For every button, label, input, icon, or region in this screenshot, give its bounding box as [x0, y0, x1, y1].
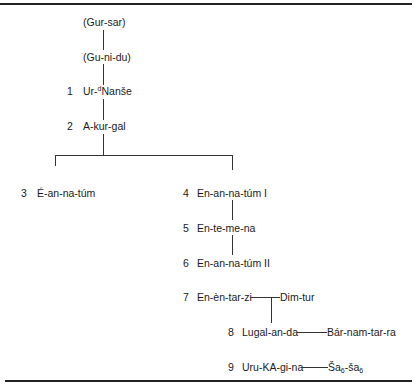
ruler-number-1: 1	[67, 85, 73, 97]
node-en-en-tar-zi: En-èn-tar-zi	[197, 291, 252, 303]
node-gu-ni-du: (Gu-ni-du)	[83, 51, 131, 63]
node-ur-nanse: Ur-dNanše	[83, 85, 132, 97]
ruler-number-3: 3	[21, 187, 27, 199]
connector-5-6	[232, 235, 233, 255]
connector-ur-nanse-a-kur-gal	[103, 99, 104, 120]
node-dim-tur: Dim-tur	[280, 291, 314, 303]
name-part: -ša	[345, 361, 360, 373]
node-gur-sar: (Gur-sar)	[83, 16, 126, 28]
connector-gur-sar-gu-ni-du	[103, 30, 104, 50]
node-en-an-na-tum-ii: En-an-na-túm II	[197, 257, 270, 269]
ruler-number-6: 6	[183, 257, 189, 269]
marriage-line-9	[301, 367, 328, 368]
connector-7-8	[271, 297, 272, 323]
name-part: Ša	[328, 361, 341, 373]
node-a-kur-gal: A-kur-gal	[83, 120, 126, 132]
marriage-line-8	[297, 332, 327, 333]
node-bar-nam-tar-ra: Bár-nam-tar-ra	[327, 326, 396, 338]
node-lugal-an-da: Lugal-an-da	[242, 326, 298, 338]
index-subscript: 6	[359, 367, 363, 374]
node-en-an-na-tum-i: En-an-na-túm I	[197, 187, 267, 199]
ruler-number-5: 5	[183, 222, 189, 234]
marriage-line-7	[250, 297, 280, 298]
node-uru-ka-gi-na: Uru-KA-gi-na	[242, 361, 303, 373]
branch-horizontal	[55, 155, 233, 156]
ruler-number-7: 7	[183, 291, 189, 303]
connector-4-5	[232, 200, 233, 220]
top-rule	[0, 3, 412, 5]
branch-left-drop	[55, 155, 56, 166]
node-e-an-na-tum: É-an-na-túm	[37, 187, 95, 199]
ruler-number-8: 8	[228, 326, 234, 338]
node-sa-sa: Ša6-ša6	[328, 361, 363, 373]
branch-right-drop	[232, 155, 233, 170]
name-part: Ur-	[83, 85, 98, 97]
ruler-number-9: 9	[228, 361, 234, 373]
connector-gu-ni-du-ur-nanse	[103, 64, 104, 85]
name-part: Nanše	[101, 85, 131, 97]
connector-a-kur-gal-down	[103, 134, 104, 155]
node-en-te-me-na: En-te-me-na	[197, 222, 255, 234]
ruler-number-4: 4	[183, 187, 189, 199]
ruler-number-2: 2	[67, 120, 73, 132]
bottom-rule	[5, 380, 412, 382]
